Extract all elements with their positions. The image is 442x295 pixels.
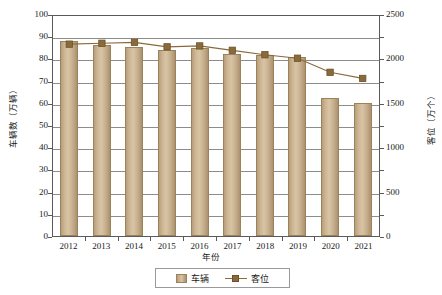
bar[interactable] [158, 50, 176, 236]
y-axis-right-tick-mark [380, 104, 384, 105]
bar-slot [118, 16, 151, 236]
y-axis-left-tick-label: 60 [22, 99, 48, 108]
y-axis-left-tick-label: 10 [22, 210, 48, 219]
bar[interactable] [321, 98, 339, 236]
y-axis-right-tick-mark [380, 37, 384, 38]
legend-swatch-icon [176, 274, 187, 283]
y-axis-left-tick-label: 70 [22, 77, 48, 86]
y-axis-right-tick-mark [380, 193, 384, 194]
x-axis-tick-mark [150, 237, 151, 241]
y-axis-left-tick-label: 80 [22, 54, 48, 63]
bar-slot [216, 16, 249, 236]
y-axis-right-tick-mark [380, 126, 384, 127]
y-axis-left-tick-label: 30 [22, 165, 48, 174]
y-axis-left-tick-label: 0 [22, 232, 48, 241]
bar-slot [281, 16, 314, 236]
bar-slot [314, 16, 347, 236]
chart-container: 1009080706050403020100 25002000150010005… [0, 0, 442, 295]
y-axis-right-tick-mark [380, 215, 384, 216]
bar[interactable] [256, 55, 274, 236]
bar-slot [151, 16, 184, 236]
legend-label-bars: 车辆 [191, 272, 209, 285]
bar-slot [183, 16, 216, 236]
y-axis-left-tick-label: 40 [22, 143, 48, 152]
y-axis-right-tick-mark [380, 59, 384, 60]
y-axis-right-tick-label: 1000 [386, 143, 418, 152]
y-axis-right-tick-mark [380, 148, 384, 149]
y-axis-right-tick-mark [380, 237, 384, 238]
x-axis-tick-mark [347, 237, 348, 241]
x-axis-tick-mark [249, 237, 250, 241]
y-axis-right-tick-label: 500 [386, 188, 418, 197]
bar-series [53, 16, 379, 236]
y-axis-left-tick-label: 90 [22, 32, 48, 41]
y-axis-left-tick-label: 20 [22, 188, 48, 197]
y-axis-left-title: 车辆数（万辆） [6, 76, 18, 156]
legend-line-icon [225, 274, 247, 283]
chart-legend: 车辆 客位 [155, 268, 290, 288]
x-axis-tick-mark [282, 237, 283, 241]
y-axis-right-tick-label: 1500 [386, 99, 418, 108]
bar[interactable] [354, 103, 372, 236]
y-axis-left-tick-label: 50 [22, 121, 48, 130]
bar[interactable] [191, 48, 209, 236]
bar[interactable] [223, 54, 241, 236]
y-axis-left-tick-mark [48, 237, 52, 238]
bar-slot [53, 16, 86, 236]
plot-area [52, 15, 380, 237]
bar-slot [249, 16, 282, 236]
y-axis-right-tick-label: 2000 [386, 54, 418, 63]
bar[interactable] [93, 45, 111, 236]
y-axis-left-tick-label: 100 [22, 10, 48, 19]
y-axis-right-tick-mark [380, 170, 384, 171]
legend-item-bars[interactable]: 车辆 [176, 272, 209, 285]
x-axis-title: 年份 [171, 250, 251, 262]
legend-item-line[interactable]: 客位 [225, 272, 269, 285]
x-axis-tick-label: 2021 [344, 241, 384, 251]
bar[interactable] [288, 57, 306, 236]
x-axis-tick-mark [216, 237, 217, 241]
x-axis-tick-mark [183, 237, 184, 241]
x-axis-tick-mark [118, 237, 119, 241]
legend-label-line: 客位 [251, 272, 269, 285]
y-axis-right-tick-mark [380, 82, 384, 83]
bar[interactable] [60, 41, 78, 236]
bar-slot [86, 16, 119, 236]
x-axis-tick-mark [85, 237, 86, 241]
y-axis-right-title: 客位（万个） [424, 78, 436, 158]
y-axis-right-tick-mark [380, 15, 384, 16]
bar-slot [346, 16, 379, 236]
bar[interactable] [125, 47, 143, 236]
x-axis-tick-mark [314, 237, 315, 241]
y-axis-right-tick-label: 2500 [386, 10, 418, 19]
y-axis-right-tick-label: 0 [386, 232, 418, 241]
